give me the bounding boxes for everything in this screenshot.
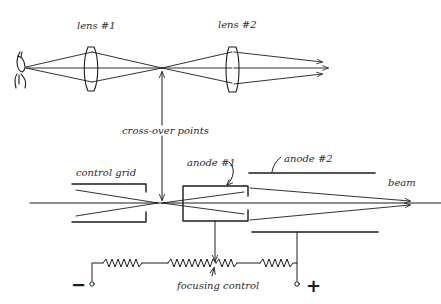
lens2-label: lens #2	[218, 19, 257, 30]
anode1-label: anode #1	[187, 157, 236, 168]
rays-source-to-lens1	[26, 52, 232, 82]
rays-lens1-to-crossover	[92, 52, 162, 82]
crossover-pointer: cross-over points	[122, 72, 209, 200]
potentiometer	[168, 259, 216, 267]
positive-sign: +	[306, 275, 321, 296]
lens1-label: lens #1	[77, 20, 116, 31]
optical-system: lens #1 lens #2	[15, 19, 328, 92]
lens-2	[226, 47, 239, 92]
control-grid-label: control grid	[76, 167, 136, 178]
resistor-1	[103, 259, 142, 267]
lens-1	[84, 47, 98, 91]
eye-icon	[15, 52, 26, 88]
anode2-label: anode #2	[284, 153, 333, 164]
crossover-label: cross-over points	[122, 125, 209, 136]
negative-sign: −	[71, 274, 86, 295]
anode2-pointer	[272, 157, 281, 172]
beam-label: beam	[388, 177, 416, 188]
electron-optics-diagram: lens #1 lens #2 cross-over points contro…	[0, 0, 441, 304]
focusing-circuit	[90, 221, 299, 286]
electron-gun: control grid anode #1 anode #2 beam	[30, 153, 441, 232]
resistor-4	[260, 259, 297, 267]
resistor-3	[216, 259, 237, 267]
beam-focused	[250, 188, 410, 220]
rays-lens2-output	[234, 52, 328, 84]
positive-terminal	[295, 282, 299, 286]
negative-terminal	[90, 282, 94, 286]
rays-crossover-to-lens2	[162, 52, 232, 83]
focusing-control-label: focusing control	[176, 280, 259, 291]
